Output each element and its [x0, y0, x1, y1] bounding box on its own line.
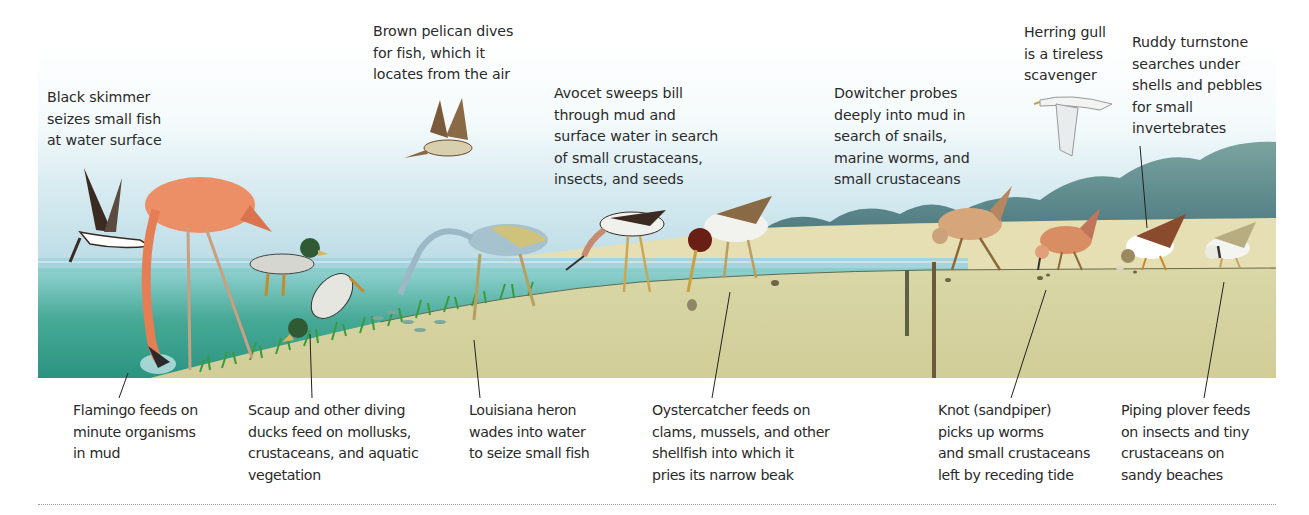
caption-dowitcher: Dowitcher probes deeply into mud in sear… — [834, 83, 970, 191]
bottom-divider — [38, 504, 1276, 505]
caption-brown-pelican: Brown pelican dives for fish, which it l… — [373, 21, 513, 86]
caption-piping-plover: Piping plover feeds on insects and tiny … — [1121, 400, 1250, 486]
caption-knot: Knot (sandpiper) picks up worms and smal… — [938, 400, 1090, 486]
dowitcher-probe — [932, 262, 936, 378]
caption-flamingo: Flamingo feeds on minute organisms in mu… — [73, 400, 198, 465]
caption-louisiana-heron: Louisiana heron wades into water to seiz… — [469, 400, 589, 465]
caption-scaup: Scaup and other diving ducks feed on mol… — [248, 400, 418, 486]
caption-oystercatcher: Oystercatcher feeds on clams, mussels, a… — [652, 400, 830, 486]
burrow — [905, 270, 909, 336]
caption-ruddy-turnstone: Ruddy turnstone searches under shells an… — [1132, 32, 1262, 140]
caption-black-skimmer: Black skimmer seizes small fish at water… — [47, 87, 162, 152]
caption-herring-gull: Herring gull is a tireless scavenger — [1024, 22, 1106, 87]
caption-avocet: Avocet sweeps bill through mud and surfa… — [554, 83, 718, 191]
